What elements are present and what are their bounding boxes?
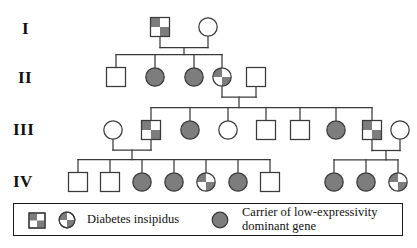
legend-quartered-circle-icon [54, 209, 80, 231]
individual-III-8-male-quartered [363, 121, 382, 140]
individual-I-1-male-quartered [151, 18, 170, 37]
individual-IV-3-female-filled [133, 173, 151, 191]
individual-III-6-male-unaffected [291, 121, 310, 140]
individual-III-5-male-unaffected [257, 121, 276, 140]
individual-II-4-female-quartered [213, 68, 231, 86]
individual-IV-6-female-filled [229, 173, 247, 191]
legend-label-carrier: Carrier of low-expressivity dominant gen… [242, 206, 377, 232]
legend-label-diabetes-insipidus: Diabetes insipidus [87, 213, 179, 226]
legend-box: Diabetes insipidus Carrier of low-expres… [13, 203, 403, 236]
individual-III-1-female-unaffected [104, 121, 122, 139]
individual-II-3-female-filled [185, 68, 203, 86]
individual-III-2-male-quartered [142, 121, 161, 140]
individual-II-2-female-filled [146, 68, 164, 86]
pedigree-connector-lines [78, 36, 400, 173]
individual-IV-8-female-filled [325, 173, 343, 191]
individual-IV-4-female-filled [165, 173, 183, 191]
individual-IV-9-female-filled [357, 173, 375, 191]
individual-III-3-female-filled [181, 121, 199, 139]
individual-II-5-male-unaffected [247, 68, 266, 87]
legend-quartered-square-icon [24, 209, 50, 231]
individual-IV-10-female-quartered [389, 173, 407, 191]
individual-IV-7-male-unaffected [261, 173, 280, 192]
individual-IV-2-male-unaffected [101, 173, 120, 192]
individual-I-2-female-unaffected [199, 18, 217, 36]
individual-IV-1-male-unaffected [69, 173, 88, 192]
individual-IV-5-female-quartered [197, 173, 215, 191]
legend-filled-circle-icon [207, 209, 233, 231]
individual-III-4-female-unaffected [219, 121, 237, 139]
individual-III-9-female-unaffected [391, 121, 409, 139]
individual-III-7-female-filled [327, 121, 345, 139]
pedigree-figure: I II III IV Diabetes insipidus [0, 0, 417, 248]
individual-II-1-male-unaffected [107, 68, 126, 87]
